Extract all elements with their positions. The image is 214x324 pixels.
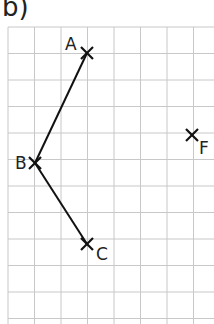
point-label-a: A xyxy=(65,34,77,54)
point-label-c: C xyxy=(96,244,108,264)
point-label-b: B xyxy=(15,153,27,173)
diagram: b) A B C F xyxy=(0,0,214,324)
grid-canvas xyxy=(0,0,214,324)
point-label-f: F xyxy=(199,138,209,158)
